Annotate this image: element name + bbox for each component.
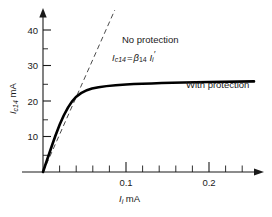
y-axis-tick-labels: 40 30 20 10 [27,25,38,143]
y-axis-subscript: c14 [12,100,19,111]
x-tick-label: 0.1 [119,177,132,188]
equation-prime-mark: ′ [154,49,156,59]
equation-lhs-subscript: c14 [115,56,126,63]
y-tick-label: 40 [27,25,38,36]
chart-plot-area: 40 30 20 10 0.1 0.2 [0,0,272,217]
equation-equals-sign: = [126,52,134,63]
x-axis-tick-labels: 0.1 0.2 [119,177,215,188]
x-axis-unit: mA [126,193,140,204]
y-axis-arrow-icon [39,8,46,18]
x-axis-arrow-icon [254,168,264,175]
y-tick-label: 10 [27,131,38,142]
annotation-with-protection: With protection [186,80,249,90]
y-axis-ticks [43,30,51,155]
x-axis-subscript: i [122,198,124,205]
x-axis-title: Ii mA [119,194,140,205]
y-tick-label: 30 [27,60,38,71]
x-axis-ticks [60,162,243,172]
annotation-equation: Ic14=β14 Ii′ [112,50,155,64]
annotation-no-protection: No protection [122,35,179,45]
series-no-protection-line [43,10,115,172]
chart-figure: 40 30 20 10 0.1 0.2 [0,0,272,217]
x-tick-label: 0.2 [202,177,215,188]
y-axis-title: Ic14 mA [8,69,19,129]
equation-beta-subscript: 14 [139,56,147,63]
y-axis-unit: mA [7,83,18,97]
y-tick-label: 20 [27,96,38,107]
series-with-protection-curve [43,81,254,172]
y-axis-variable: I [7,111,18,114]
